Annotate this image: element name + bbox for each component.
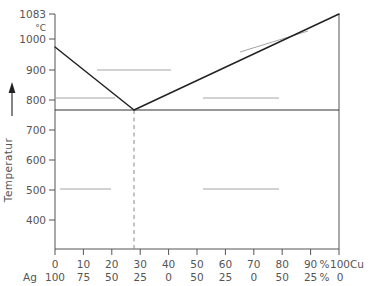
x-tick-label-row2-10: 75 <box>77 271 90 283</box>
phase-diagram-figure: 1083 °C 1000 900 800 700 600 500 400 Tem… <box>0 0 372 286</box>
x-axis-ticks <box>55 249 339 255</box>
liquidus-curves <box>55 14 339 110</box>
y-tick-label-500: 500 <box>26 184 46 196</box>
x-axis-element-label-cu: Cu <box>350 258 364 270</box>
x-tick-label-row2-60: 25 <box>219 271 232 283</box>
y-axis-ticks <box>49 14 55 220</box>
x-tick-label-row1-80: 80 <box>276 258 289 270</box>
y-tick-label-700: 700 <box>26 124 46 136</box>
x-tick-label-row2-100: 0 <box>337 271 344 283</box>
x-tick-label-row2-50: 50 <box>190 271 203 283</box>
liquidus-silver-branch <box>55 47 134 110</box>
x-axis-percent-symbol-row1: % <box>320 258 330 270</box>
x-axis-tick-labels-row2: Ag 100 75 50 25 0 50 25 0 50 25 % 0 <box>23 271 343 283</box>
x-axis-tick-labels-row1: 0 10 20 30 40 50 60 70 80 90 % 100 Cu <box>52 258 364 270</box>
y-tick-label-1000: 1000 <box>19 33 46 45</box>
y-axis-tick-labels: 1083 °C 1000 900 800 700 600 500 400 <box>19 8 46 226</box>
guide-segment-liquidus-upper-right <box>240 31 308 52</box>
x-tick-label-row2-80: 50 <box>276 271 289 283</box>
x-tick-label-row2-40: 0 <box>165 271 172 283</box>
x-tick-label-row1-10: 10 <box>77 258 90 270</box>
x-tick-label-row2-20: 50 <box>105 271 118 283</box>
x-tick-label-row2-30: 25 <box>134 271 147 283</box>
x-tick-label-row2-90: 25 <box>304 271 317 283</box>
x-tick-label-row1-70: 70 <box>247 258 260 270</box>
x-tick-label-row1-90: 90 <box>304 258 317 270</box>
y-tick-label-600: 600 <box>26 154 46 166</box>
y-tick-label-900: 900 <box>26 64 46 76</box>
x-tick-label-row1-40: 40 <box>162 258 175 270</box>
x-tick-label-row1-50: 50 <box>190 258 203 270</box>
axis-frame <box>55 14 339 249</box>
x-tick-label-row1-100: 100 <box>330 258 350 270</box>
x-tick-label-row2-0: 100 <box>45 271 65 283</box>
liquidus-copper-branch <box>134 14 339 110</box>
x-tick-label-row1-0: 0 <box>52 258 59 270</box>
x-axis-element-label-ag: Ag <box>23 271 37 283</box>
y-tick-label-800: 800 <box>26 94 46 106</box>
y-axis-title-group: Temperatur <box>2 82 15 203</box>
x-tick-label-row1-30: 30 <box>134 258 147 270</box>
y-axis-arrow-icon <box>9 82 16 116</box>
y-axis-unit-label: °C <box>35 23 46 33</box>
x-tick-label-row1-60: 60 <box>219 258 232 270</box>
y-tick-label-1083: 1083 <box>19 8 46 20</box>
x-tick-label-row1-20: 20 <box>105 258 118 270</box>
y-tick-label-400: 400 <box>26 214 46 226</box>
x-tick-label-row2-70: 0 <box>250 271 257 283</box>
x-axis-percent-symbol-row2: % <box>320 271 330 283</box>
phase-diagram-svg: 1083 °C 1000 900 800 700 600 500 400 Tem… <box>0 0 372 286</box>
y-axis-title: Temperatur <box>2 138 14 204</box>
